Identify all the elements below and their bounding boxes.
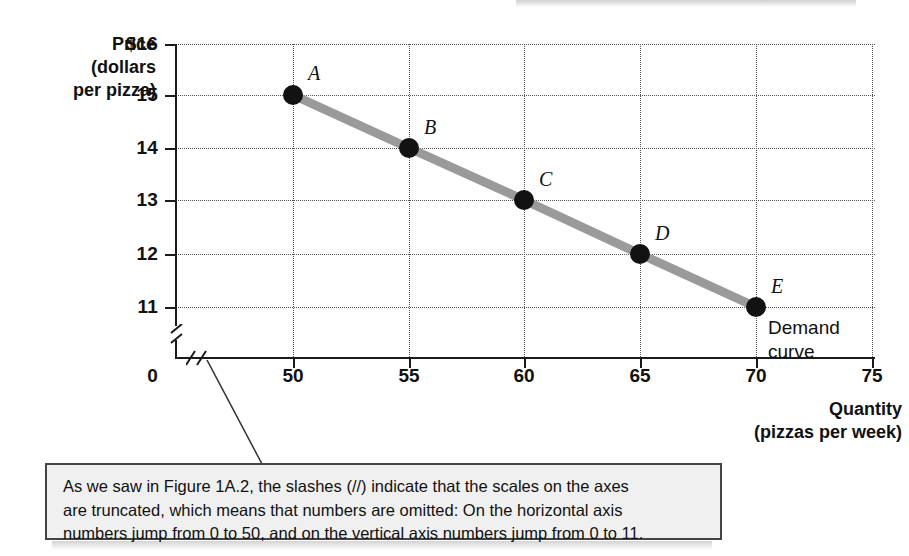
callout-leader-line: [170, 352, 280, 470]
y-axis-line: [175, 44, 177, 326]
x-tick-label-55: 55: [379, 365, 439, 387]
data-point-label-a: A: [308, 62, 320, 85]
data-point-label-d: D: [655, 222, 669, 245]
x-axis-title-line2: (pizzas per week): [618, 421, 902, 444]
callout-line-3: numbers jump from 0 to 50, and on the ve…: [63, 522, 706, 546]
y-axis-break-icon: [168, 324, 186, 344]
gridline-x-65: [640, 44, 641, 357]
data-point-c: [514, 190, 534, 210]
y-tick-16: [165, 44, 176, 46]
y-tick-13: [165, 200, 176, 202]
x-tick-label-60: 60: [494, 365, 554, 387]
data-point-label-c: C: [539, 168, 552, 191]
data-point-b: [399, 138, 419, 158]
y-tick-label-11: 11: [96, 296, 158, 318]
y-axis-title: Price (dollars per pizza): [44, 33, 156, 102]
demand-curve-chart: $16 15 14 13 12 11 0 50 55 60 65 70 75 P…: [0, 0, 909, 460]
callout-line-2: are truncated, which means that numbers …: [63, 499, 706, 523]
gridline-y-16: [175, 44, 875, 45]
data-point-a: [283, 85, 303, 105]
x-axis-title-line1: Quantity: [618, 398, 902, 421]
callout-line-1: As we saw in Figure 1A.2, the slashes (/…: [63, 475, 706, 499]
callout-box: As we saw in Figure 1A.2, the slashes (/…: [45, 463, 722, 540]
y-tick-11: [165, 307, 176, 309]
y-tick-15: [165, 95, 176, 97]
y-tick-label-14: 14: [96, 137, 158, 159]
demand-curve-annotation-line1: Demand: [768, 316, 878, 340]
x-tick-label-65: 65: [610, 365, 670, 387]
gridline-y-11: [175, 307, 875, 308]
data-point-d: [630, 244, 650, 264]
y-tick-12: [165, 254, 176, 256]
x-tick-label-70: 70: [726, 365, 786, 387]
gridline-y-14: [175, 148, 875, 149]
gridline-x-55: [409, 44, 410, 357]
x-axis-title: Quantity (pizzas per week): [618, 398, 902, 444]
y-tick-label-13: 13: [96, 189, 158, 211]
y-axis-title-line1: Price: [44, 33, 156, 56]
y-axis-title-line2: (dollars: [44, 56, 156, 79]
x-tick-label-75: 75: [842, 365, 902, 387]
y-axis-title-line3: per pizza): [44, 79, 156, 102]
y-tick-label-12: 12: [96, 243, 158, 265]
demand-curve-annotation: Demand curve: [768, 316, 878, 364]
gridline-x-75: [872, 44, 873, 357]
data-point-label-b: B: [424, 116, 436, 139]
data-point-label-e: E: [771, 275, 783, 298]
origin-label-zero: 0: [96, 365, 158, 387]
gridline-y-12: [175, 254, 875, 255]
demand-curve-annotation-line2: curve: [768, 340, 878, 364]
data-point-e: [746, 297, 766, 317]
gridline-y-15: [175, 95, 875, 96]
y-tick-14: [165, 148, 176, 150]
